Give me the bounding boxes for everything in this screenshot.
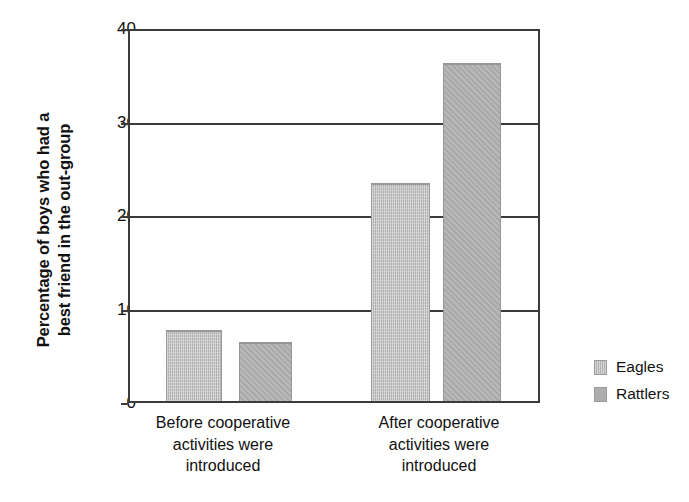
x-group-label-before-line-1: Before cooperative <box>132 412 314 434</box>
x-group-label-after-line-3: introduced <box>348 455 530 477</box>
bar-before-rattlers <box>239 342 292 401</box>
y-axis-title-line-2: best friend in the out-group <box>54 124 75 337</box>
legend-item-rattlers: Rattlers <box>594 385 669 403</box>
legend-label-eagles: Eagles <box>616 358 663 376</box>
legend-swatch-rattlers-icon <box>594 387 607 402</box>
legend-item-eagles: Eagles <box>594 358 669 376</box>
x-group-label-after: After cooperative activities were introd… <box>348 412 530 477</box>
y-tick-mark-40 <box>121 29 128 31</box>
legend-label-rattlers: Rattlers <box>616 385 669 403</box>
y-axis-title: Percentage of boys who had a best friend… <box>31 20 77 440</box>
x-group-label-before-line-3: introduced <box>132 455 314 477</box>
y-tick-mark-0 <box>121 403 128 405</box>
y-tick-mark-30 <box>121 123 128 125</box>
bar-before-eagles <box>166 330 222 401</box>
bar-after-rattlers <box>443 63 501 401</box>
y-tick-mark-20 <box>121 216 128 218</box>
x-group-label-after-line-2: activities were <box>348 434 530 456</box>
legend-swatch-eagles-icon <box>594 360 607 375</box>
bar-after-eagles <box>371 183 430 401</box>
bar-chart: Percentage of boys who had a best friend… <box>0 0 689 502</box>
x-group-label-after-line-1: After cooperative <box>348 412 530 434</box>
y-axis-title-line-1: Percentage of boys who had a <box>33 113 54 348</box>
plot-area <box>128 29 540 403</box>
legend: Eagles Rattlers <box>594 358 669 403</box>
x-group-label-before-line-2: activities were <box>132 434 314 456</box>
x-group-label-before: Before cooperative activities were intro… <box>132 412 314 477</box>
y-tick-mark-10 <box>121 310 128 312</box>
